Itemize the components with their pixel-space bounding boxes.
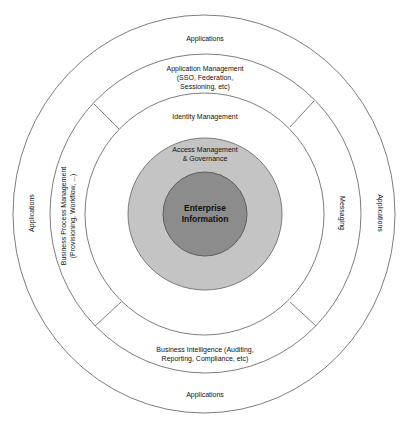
- app-mgmt-line-1: Application Management: [166, 64, 243, 73]
- identity-label: Identity Management: [172, 112, 237, 121]
- enterprise-identity-diagram: Applications Applications Applications A…: [0, 0, 410, 424]
- outer-label-bottom: Applications: [186, 390, 224, 399]
- bpm-line-2: (Provisioning, Workflow, ...): [68, 167, 77, 265]
- services-label-right: Messaging: [338, 196, 347, 230]
- bi-line-2: Reporting, Compliance, etc): [156, 354, 253, 363]
- governance-label: Access Management & Governance: [172, 145, 237, 163]
- app-mgmt-line-2: (SSO, Federation,: [166, 73, 243, 82]
- governance-line-1: Access Management: [172, 145, 237, 154]
- services-label-top: Application Management (SSO, Federation,…: [166, 64, 243, 91]
- outer-label-top: Applications: [186, 34, 224, 43]
- core-label: Enterprise Information: [182, 203, 229, 225]
- outer-label-left: Applications: [27, 194, 36, 232]
- outer-label-right: Applications: [376, 194, 385, 232]
- core-line-2: Information: [182, 214, 229, 225]
- bpm-line-1: Business Process Management: [59, 167, 68, 265]
- bi-line-1: Business Intelligence (Auditing,: [156, 345, 253, 354]
- governance-line-2: & Governance: [172, 154, 237, 163]
- services-label-bottom: Business Intelligence (Auditing, Reporti…: [156, 345, 253, 363]
- services-label-left: Business Process Management (Provisionin…: [59, 167, 77, 265]
- core-line-1: Enterprise: [182, 203, 229, 214]
- app-mgmt-line-3: Sessioning, etc): [166, 82, 243, 91]
